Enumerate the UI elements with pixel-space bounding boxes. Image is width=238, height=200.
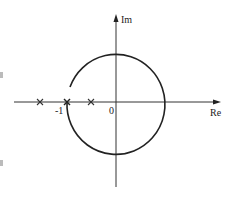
origin-label: 0 [109,105,114,116]
nyquist-diagram: Im Re 0 -1 [0,0,238,200]
imag-axis-label: Im [121,14,132,25]
real-axis-label: Re [210,107,222,118]
real-axis-arrow-icon [213,100,221,105]
imag-axis-arrow-icon [114,14,119,22]
critical-point-label: -1 [55,105,63,116]
